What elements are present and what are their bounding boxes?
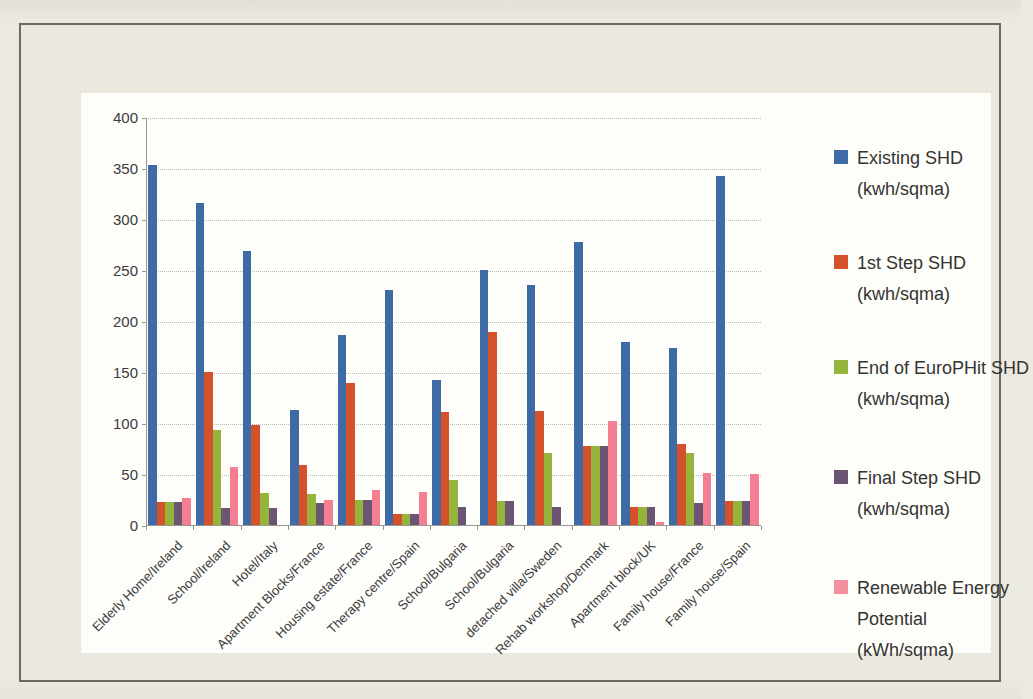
legend-label: End of EuroPHit SHD(kwh/sqma) [857,353,1029,415]
bar [527,285,536,525]
y-axis-tick-label: 200 [86,313,138,331]
x-axis-tick [619,526,620,530]
x-axis-tick [288,526,289,530]
y-axis-tick-label: 250 [86,262,138,280]
bar [307,494,316,525]
bar [251,425,260,525]
bar [165,502,174,525]
x-axis-tick [241,526,242,530]
y-axis-tick-label: 150 [86,364,138,382]
x-axis-tick [383,526,384,530]
x-axis-tick [572,526,573,530]
y-gridline [146,220,761,221]
x-axis-tick [761,526,762,530]
x-axis-tick [477,526,478,530]
legend-label-line: (kwh/sqma) [857,174,963,205]
legend-label-line: Renewable Energy [857,573,1009,604]
y-axis-tick [142,424,146,425]
bar [638,507,647,525]
bar [243,251,252,525]
bar [621,342,630,525]
bar [174,502,183,525]
legend-label-line: Potential [857,604,1009,635]
bar [733,501,742,525]
bar [324,500,333,526]
legend-swatch [834,470,848,484]
bar [535,411,544,525]
bar [552,507,561,525]
bar [260,493,269,525]
y-axis-tick [142,475,146,476]
bar [716,176,725,525]
legend-label-line: (kWh/sqma) [857,635,1009,666]
bar [393,514,402,525]
legend-label-line: (kwh/sqma) [857,279,966,310]
bar [574,242,583,525]
y-axis-tick-label: 400 [86,109,138,127]
bar [441,412,450,525]
x-axis-tick [430,526,431,530]
bar [656,522,665,525]
bar [346,383,355,525]
bar [750,474,759,525]
plot-area [146,118,761,526]
legend-label-line: (kwh/sqma) [857,494,981,525]
bar [583,446,592,525]
bar [402,514,411,525]
bar [725,501,734,525]
bar [630,507,639,525]
bar [363,500,372,526]
y-axis-tick-label: 100 [86,415,138,433]
bar [269,508,278,525]
bar [372,490,381,525]
bar [182,498,191,525]
bar [157,502,166,525]
x-axis-line [146,525,761,526]
bar [600,446,609,525]
bar [385,290,394,525]
legend-label-line: 1st Step SHD [857,248,966,279]
y-axis-tick-label: 0 [86,517,138,535]
x-axis-tick [193,526,194,530]
bar [230,467,239,525]
legend-label: Final Step SHD(kwh/sqma) [857,463,981,525]
bar [480,270,489,525]
legend-swatch [834,150,848,164]
legend-label-line: (kwh/sqma) [857,384,1029,415]
legend-item: Final Step SHD(kwh/sqma) [834,463,981,525]
y-axis-tick-label: 350 [86,160,138,178]
x-axis-tick [524,526,525,530]
bar [419,492,428,525]
y-gridline [146,322,761,323]
legend-item: Existing SHD(kwh/sqma) [834,143,963,205]
x-axis-tick [666,526,667,530]
x-axis-tick [335,526,336,530]
bar [299,465,308,525]
bar [290,410,299,525]
legend-item: End of EuroPHit SHD(kwh/sqma) [834,353,1029,415]
bar [213,430,222,525]
y-axis-tick [142,220,146,221]
bar [608,421,617,525]
bar [204,372,213,525]
legend-label: 1st Step SHD(kwh/sqma) [857,248,966,310]
chart-canvas: 050100150200250300350400 Elderly Home/Ir… [81,93,991,653]
y-axis-tick-label: 300 [86,211,138,229]
bar [316,503,325,525]
bar [196,203,205,525]
bar [669,348,678,525]
bar [694,503,703,525]
x-axis-tick [714,526,715,530]
bar [221,508,230,525]
y-axis-tick [142,118,146,119]
y-gridline [146,118,761,119]
legend-swatch [834,580,848,594]
bar [458,507,467,525]
legend-label-line: Final Step SHD [857,463,981,494]
legend-item: Renewable EnergyPotential(kWh/sqma) [834,573,1009,666]
bar [449,480,458,525]
legend-swatch [834,255,848,269]
bar [742,501,751,525]
bar [703,473,712,525]
chart-frame: 050100150200250300350400 Elderly Home/Ir… [19,23,1001,682]
